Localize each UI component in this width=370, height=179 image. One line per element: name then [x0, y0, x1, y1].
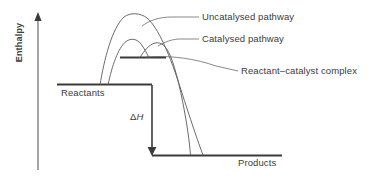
reactants-label: Reactants [61, 88, 105, 98]
catalysed-pathway-label: Catalysed pathway [202, 34, 284, 44]
catalysed-pathway-curve-first-barrier [108, 39, 149, 85]
diagram-canvas [0, 0, 370, 179]
y-axis-label: Enthalpy [15, 13, 24, 73]
uncatalysed-pathway-label: Uncatalysed pathway [202, 12, 294, 22]
enthalpy-axis [34, 12, 41, 170]
enthalpy-diagram: Enthalpy Uncatalysed pathway Catalysed p… [0, 0, 370, 179]
enthalpy-change-label: ΔH [130, 112, 143, 122]
reactant-catalyst-complex-leader-line [146, 56, 238, 71]
reactant-catalyst-complex-label: Reactant–catalyst complex [241, 66, 357, 76]
catalysed-pathway-curve-second-barrier [140, 43, 191, 155]
delta-h-arrow [148, 85, 157, 156]
products-label: Products [238, 158, 276, 168]
up-arrow-icon [34, 12, 41, 21]
enthalpy-change-variable: H [136, 111, 143, 122]
